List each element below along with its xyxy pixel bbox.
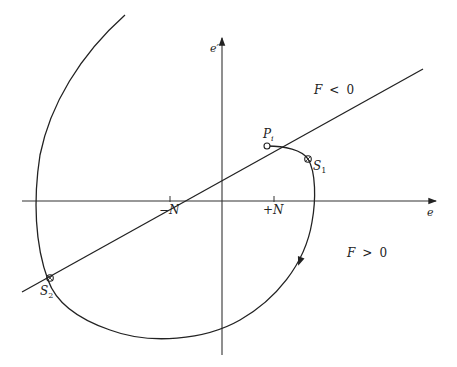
region-label-f-positive: F > 0 [346, 246, 387, 260]
tick-label-minus-n: −N [159, 203, 180, 217]
tick-label-plus-n: +N [263, 203, 284, 217]
initial-point-label: Pi [262, 127, 274, 143]
x-axis-label: e [427, 206, 434, 219]
switch-point-s1-label: S1 [313, 159, 326, 175]
phase-plane-diagram: e′ e −N +N F < 0 F > 0 Pi S1 S2 [0, 0, 457, 367]
trajectory-curve [36, 15, 315, 339]
y-axis-label: e′ [210, 42, 220, 55]
initial-point-marker [264, 143, 270, 149]
region-label-f-negative: F < 0 [313, 83, 354, 97]
